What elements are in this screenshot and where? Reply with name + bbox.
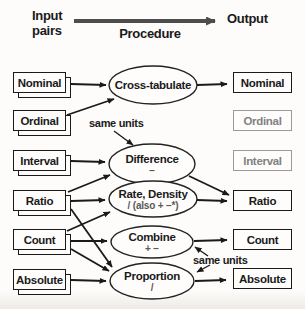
input-box-interval-label: Interval (13, 150, 66, 171)
arrow-difference-to-ratio (189, 176, 229, 195)
arrow-sameunits-to-difference (114, 131, 133, 145)
ellipse-cross-tabulate (109, 66, 197, 104)
ellipse-difference (109, 144, 195, 184)
input-box-ordinal-label: Ordinal (13, 110, 66, 131)
arrow-interval-to-difference (71, 161, 105, 162)
input-box-nominal: Nominal (13, 72, 66, 93)
arrow-count-to-ratedensity (67, 212, 110, 231)
arrow-sameunits-to-proportion (197, 265, 210, 272)
arrow-ratio-to-ratedensity (71, 200, 105, 201)
measurement-scales-diagram: Input pairs Procedure Output Nominal Ord… (0, 0, 305, 309)
header-procedure-label: Procedure (114, 27, 186, 42)
input-box-nominal-label: Nominal (13, 72, 66, 93)
output-box-nominal: Nominal (233, 72, 292, 93)
arrow-nominal-to-crosstab (71, 84, 106, 85)
arrow-count-to-proportion (71, 249, 109, 271)
input-box-absolute-label: Absolute (13, 269, 66, 290)
arrow-ordinal-to-crosstab (67, 99, 114, 115)
same-units-note-top: same units (89, 117, 143, 129)
input-box-absolute: Absolute (13, 269, 66, 290)
arrow-absolute-to-proportion (71, 280, 106, 281)
arrow-combine-to-count (194, 240, 227, 241)
arrow-ratedensity-to-ratio (197, 200, 227, 201)
input-box-count-label: Count (13, 229, 66, 250)
arrow-ratio-to-difference (68, 175, 110, 192)
input-box-ratio-label: Ratio (13, 190, 66, 211)
arrow-crosstab-to-nominal (197, 84, 227, 85)
input-box-interval: Interval (13, 150, 66, 171)
output-box-absolute: Absolute (233, 268, 292, 289)
output-box-ratio: Ratio (233, 190, 292, 211)
input-box-ratio: Ratio (13, 190, 66, 211)
input-box-count: Count (13, 229, 66, 250)
same-units-note-bottom: same units (193, 254, 247, 266)
ellipse-proportion (110, 263, 194, 299)
output-box-ordinal: Ordinal (233, 110, 292, 131)
arrow-proportion-to-absolute (195, 280, 226, 281)
input-box-ordinal: Ordinal (13, 110, 66, 131)
ellipse-rate-density (109, 181, 197, 217)
output-box-interval: Interval (233, 150, 292, 171)
header-output-label: Output (227, 12, 268, 27)
header-input-pairs-label: Input pairs (32, 9, 80, 38)
output-box-count: Count (233, 229, 292, 250)
arrow-ratio-to-proportion (71, 209, 112, 267)
ellipse-combine (111, 226, 193, 258)
